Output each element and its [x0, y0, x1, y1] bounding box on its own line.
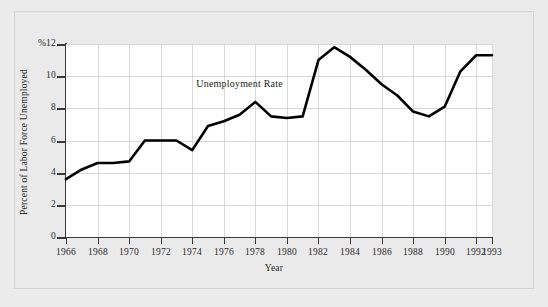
data-line-layer	[66, 44, 492, 237]
x-axis-tick	[161, 237, 162, 244]
x-axis-title: Year	[0, 263, 548, 273]
y-axis-tick-label: 8	[8, 102, 56, 112]
x-axis-tick	[192, 237, 193, 244]
x-axis-tick-label: 1966	[56, 247, 76, 257]
x-axis-tick	[350, 237, 351, 244]
y-axis-tick-label: 4	[8, 167, 56, 177]
x-axis-tick-label: 1988	[403, 247, 423, 257]
y-axis-tick-label: 6	[8, 135, 56, 145]
x-axis-tick	[382, 237, 383, 244]
x-axis-tick	[492, 237, 493, 244]
x-axis-tick-label: 1993	[482, 247, 502, 257]
x-axis-tick-label: 1984	[340, 247, 360, 257]
x-axis-tick	[287, 237, 288, 244]
gridline-vertical	[492, 44, 493, 237]
x-axis-tick-label: 1986	[372, 247, 392, 257]
x-axis-tick-label: 1982	[308, 247, 328, 257]
plot-area	[66, 44, 492, 237]
x-axis-tick	[318, 237, 319, 244]
x-axis-tick	[129, 237, 130, 244]
y-axis-tick-label: 2	[8, 199, 56, 209]
x-axis-tick-label: 1972	[151, 247, 171, 257]
series-annotation-label: Unemployment Rate	[196, 78, 282, 89]
x-axis-tick	[476, 237, 477, 244]
y-axis-tick-label: 10	[8, 70, 56, 80]
x-axis-tick-label: 1974	[182, 247, 202, 257]
x-axis-tick-label: 1990	[435, 247, 455, 257]
x-axis-tick	[98, 237, 99, 244]
y-axis-tick-label: %12	[8, 38, 56, 48]
x-axis-tick	[445, 237, 446, 244]
x-axis-tick-label: 1980	[277, 247, 297, 257]
x-axis-tick-label: 1970	[119, 247, 139, 257]
x-axis-tick	[255, 237, 256, 244]
x-axis-tick	[66, 237, 67, 244]
y-axis-tick-label: 0	[8, 231, 56, 241]
chart-figure: Percent of Labor Force Unemployed 024681…	[0, 0, 548, 307]
x-axis-tick	[224, 237, 225, 244]
unemployment-rate-line	[66, 47, 492, 179]
x-axis-tick	[413, 237, 414, 244]
x-axis-tick-label: 1968	[88, 247, 108, 257]
x-axis-tick-label: 1978	[245, 247, 265, 257]
x-axis-tick-label: 1976	[214, 247, 234, 257]
